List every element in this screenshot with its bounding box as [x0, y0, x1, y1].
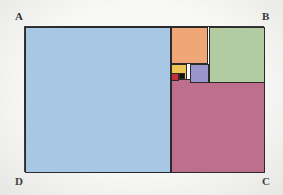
eighth-square — [179, 73, 185, 79]
fifth-square — [190, 64, 209, 83]
second-square — [171, 79, 265, 173]
corner-label-a: A — [15, 11, 23, 22]
fibonacci-squared-rectangle-figure: A B C D — [0, 0, 283, 195]
corner-label-b: B — [262, 11, 269, 22]
corner-label-c: C — [262, 176, 270, 187]
largest-square — [25, 27, 171, 173]
outer-rectangle — [24, 26, 264, 172]
third-square — [209, 27, 265, 83]
corner-label-d: D — [15, 176, 23, 187]
fourth-square — [171, 27, 208, 64]
seventh-square — [171, 73, 179, 81]
